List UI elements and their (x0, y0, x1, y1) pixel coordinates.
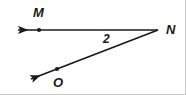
point-label-o: O (53, 76, 63, 89)
point-dot-m (37, 28, 41, 32)
point-dot-o (55, 67, 59, 71)
ray-no-line (31, 30, 158, 79)
canvas-right-border (185, 0, 186, 95)
point-label-n: N (166, 23, 175, 36)
point-label-m: M (33, 6, 44, 19)
canvas-bottom-border (0, 94, 186, 95)
angle-label-2: 2 (103, 33, 110, 45)
geometry-diagram: M N O 2 (0, 0, 186, 95)
diagram-canvas (0, 0, 186, 95)
